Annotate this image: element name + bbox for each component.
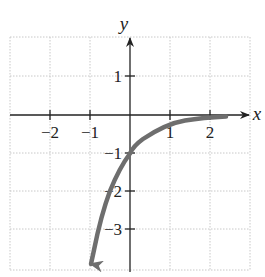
x-tick-label: 2 [206, 123, 215, 142]
x-tick-label: −2 [41, 123, 59, 142]
y-tick-label: −3 [104, 220, 122, 239]
x-axis-label: x [252, 103, 262, 124]
graph: −2 −1 1 2 1 −1 −2 −3 y x [0, 0, 265, 277]
y-axis-label: y [118, 13, 129, 34]
x-tick-label: −1 [81, 123, 99, 142]
y-tick-label: −1 [104, 144, 122, 163]
y-tick-label: 1 [114, 67, 123, 86]
